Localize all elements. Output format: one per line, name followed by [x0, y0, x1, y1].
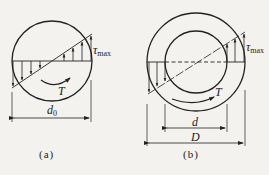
- torque-arrow-icon: [172, 97, 214, 103]
- max-subscript: max: [97, 49, 111, 58]
- d0-label: d0: [47, 103, 57, 118]
- tau-max-label-a: τmax: [93, 43, 111, 58]
- shear-stress-diagram: τmax T d0 (a) τmax T d D (b): [0, 0, 269, 175]
- tau-max-label-b: τmax: [246, 40, 264, 55]
- stress-distribution-line: [148, 32, 245, 94]
- caption-b: (b): [183, 148, 199, 160]
- outer-diameter-label: D: [191, 130, 200, 145]
- caption-a: (a): [39, 148, 54, 160]
- torque-arrow-icon: [41, 78, 70, 85]
- zero-subscript: 0: [53, 109, 57, 118]
- inner-diameter-label: d: [192, 115, 198, 130]
- torque-label-a: T: [58, 84, 65, 99]
- max-subscript: max: [250, 46, 264, 55]
- torque-label-b: T: [215, 85, 222, 100]
